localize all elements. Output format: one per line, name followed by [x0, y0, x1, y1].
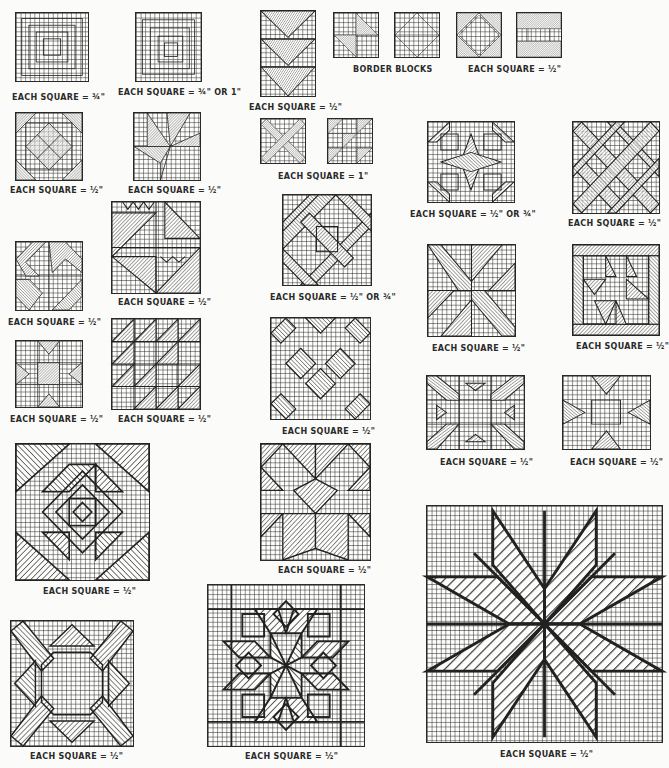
caption: EACH SQUARE = ½"	[10, 415, 103, 424]
caption: EACH SQUARE = ½"	[249, 103, 342, 112]
quilt-block-lily	[133, 112, 201, 181]
quilt-block-log-cabin-1	[15, 12, 89, 82]
quilt-block-diamond-lattice	[270, 317, 371, 420]
pineapple-icon	[16, 444, 149, 580]
pinwheel-icon	[16, 242, 82, 310]
quilt-block-carpenters-wheel	[207, 584, 365, 747]
diagonal-lattice-icon	[573, 122, 659, 213]
border-blocks-label: BORDER BLOCKS	[353, 65, 433, 74]
quilt-block-cake-stand	[111, 201, 201, 294]
quilt-block-octagon-cross	[10, 620, 134, 747]
quilt-block-square-lattice	[15, 112, 83, 181]
x-star-icon	[428, 245, 515, 336]
framed-triangles-icon	[573, 245, 659, 335]
flying-geese-icon	[261, 11, 315, 96]
caption: EACH SQUARE = ½"	[570, 458, 663, 467]
caption: EACH SQUARE = ½"	[468, 65, 561, 74]
half-square-triangles-icon	[334, 13, 378, 57]
square-in-square-icon	[457, 13, 501, 57]
octagon-cross-icon	[11, 621, 133, 746]
quilt-block-diagonal-triangles	[111, 318, 201, 410]
carpenters-wheel-icon	[208, 585, 364, 746]
small-triangles-icon	[328, 119, 372, 163]
quilt-block-x	[260, 118, 306, 164]
border-block-3	[456, 12, 502, 58]
quilt-block-woven-square	[282, 194, 372, 286]
caption: EACH SQUARE = ½"	[30, 752, 123, 761]
concentric-squares-icon	[136, 13, 201, 81]
concentric-squares-icon	[16, 13, 88, 81]
lattice-icon	[16, 113, 82, 180]
caption: EACH SQUARE = ½"	[10, 186, 103, 195]
caption: EACH SQUARE = ½"	[118, 298, 211, 307]
caption: EACH SQUARE = ½"	[8, 318, 101, 327]
caption: EACH SQUARE = ½"	[278, 566, 371, 575]
caption: EACH SQUARE = ½" OR ¾"	[410, 210, 536, 219]
border-block-2	[394, 12, 440, 58]
quilt-block-bordered-stars	[572, 244, 660, 336]
quilt-block-octagon-star	[427, 121, 515, 203]
caption: EACH SQUARE = 1"	[278, 172, 368, 181]
quilt-block-lone-star	[426, 505, 663, 743]
caption: EACH SQUARE = ½"	[568, 219, 661, 228]
caption: EACH SQUARE = ½"	[43, 587, 136, 596]
caption: EACH SQUARE = ½"	[118, 415, 211, 424]
quilt-block-flying-geese	[260, 10, 316, 97]
lily-icon	[134, 113, 200, 180]
diamond-outline-icon	[395, 13, 439, 57]
caption: EACH SQUARE = ½"	[576, 342, 669, 351]
caption: EACH SQUARE = ¾" OR 1"	[118, 88, 241, 97]
border-block-4	[516, 12, 562, 58]
quilt-block-log-cabin-2	[135, 12, 202, 82]
caption: EACH SQUARE = ½"	[432, 344, 525, 353]
caption: EACH SQUARE = ¾"	[12, 93, 105, 102]
caption: EACH SQUARE = ½" OR ¾"	[270, 293, 396, 302]
quilt-block-ohio-star	[15, 340, 83, 408]
birds-icon	[261, 444, 370, 560]
diamond-lattice-icon	[271, 318, 370, 419]
caption: EACH SQUARE = ½"	[440, 458, 533, 467]
bars-icon	[517, 13, 561, 57]
woven-bands-icon	[283, 195, 371, 285]
crossed-bands-icon	[261, 119, 305, 163]
star-icon	[563, 376, 650, 449]
quilt-block-eight-point-star	[562, 375, 651, 450]
quilt-block-star-x	[427, 244, 516, 337]
caption: EACH SQUARE = ½"	[245, 752, 338, 761]
quilt-block-pinwheel	[15, 241, 83, 311]
lone-star-icon	[427, 506, 662, 742]
sawtooth-triangles-icon	[112, 202, 200, 293]
ohio-star-icon	[16, 341, 82, 407]
quilt-block-pineapple	[15, 443, 150, 581]
sawtooth-frame-icon	[427, 376, 524, 449]
border-block-1	[333, 12, 379, 58]
quilt-block-sawtooth-frame	[426, 375, 525, 450]
caption: EACH SQUARE = ½"	[282, 427, 375, 436]
caption: EACH SQUARE = ½"	[500, 750, 593, 759]
triangles-icon	[112, 319, 200, 409]
quilt-block-triangles	[327, 118, 373, 164]
quilt-block-flying-birds	[260, 443, 371, 561]
quilt-block-diagonal-lattice	[572, 121, 660, 214]
caption: EACH SQUARE = ½"	[128, 186, 221, 195]
octagon-star-icon	[428, 122, 514, 202]
